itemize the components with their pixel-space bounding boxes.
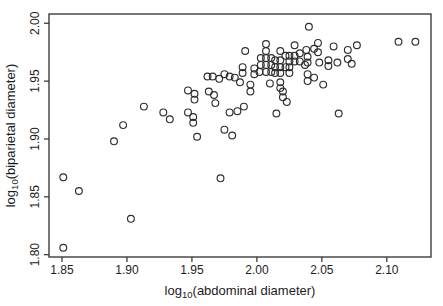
data-point: [335, 110, 342, 117]
y-tick-label: 1.80: [28, 243, 42, 267]
data-point: [263, 41, 270, 48]
data-point: [160, 109, 167, 116]
data-point: [304, 78, 311, 85]
data-point: [242, 48, 249, 55]
data-point: [354, 42, 361, 49]
data-point: [120, 122, 127, 129]
data-point: [127, 215, 134, 222]
data-point: [306, 23, 313, 30]
data-point: [211, 92, 218, 99]
data-point: [111, 138, 118, 145]
data-point: [348, 60, 355, 67]
data-point: [247, 81, 254, 88]
y-axis-label: log10(biparietal diameter): [3, 64, 20, 208]
data-point: [212, 100, 219, 107]
data-point: [320, 81, 327, 88]
plot-frame: [49, 14, 431, 257]
y-tick-label: 1.85: [28, 185, 42, 209]
data-point: [234, 108, 241, 115]
data-point: [277, 57, 284, 64]
y-tick-label: 1.95: [28, 69, 42, 93]
data-point: [304, 71, 311, 78]
data-point: [221, 126, 228, 133]
data-point: [395, 38, 402, 45]
x-tick-label: 1.95: [180, 263, 204, 277]
x-axis-label: log10(abdominal diameter): [165, 283, 316, 300]
y-tick-label: 2.00: [28, 11, 42, 35]
scatter-plot-figure: 1.851.901.952.002.052.101.801.851.901.95…: [0, 0, 443, 306]
data-point: [76, 188, 83, 195]
data-point: [60, 244, 67, 251]
x-tick-label: 2.00: [245, 263, 269, 277]
data-point: [241, 103, 248, 110]
scatter-plot: 1.851.901.952.002.052.101.801.851.901.95…: [0, 0, 443, 306]
data-point: [303, 47, 310, 54]
data-point: [194, 133, 201, 140]
data-point: [257, 62, 264, 69]
data-point: [237, 79, 244, 86]
data-point: [267, 80, 274, 87]
x-tick-label: 1.85: [50, 263, 74, 277]
data-point: [330, 43, 337, 50]
data-point: [226, 109, 233, 116]
data-point: [412, 38, 419, 45]
data-point: [344, 56, 351, 63]
data-point: [316, 59, 323, 66]
x-tick-label: 2.10: [375, 263, 399, 277]
data-point: [257, 55, 264, 62]
data-point: [283, 99, 290, 106]
data-point: [311, 74, 318, 81]
x-tick-label: 1.90: [115, 263, 139, 277]
data-point: [185, 87, 192, 94]
data-point: [209, 73, 216, 80]
data-point: [263, 48, 270, 55]
x-tick-label: 2.05: [310, 263, 334, 277]
data-point: [141, 103, 148, 110]
y-tick-label: 1.90: [28, 127, 42, 151]
data-point: [344, 47, 351, 54]
data-point: [247, 88, 254, 95]
data-point: [229, 132, 236, 139]
data-point: [273, 110, 280, 117]
data-point: [291, 42, 298, 49]
data-point: [334, 59, 341, 66]
data-point: [60, 174, 67, 181]
data-point: [166, 116, 173, 123]
data-point: [217, 175, 224, 182]
